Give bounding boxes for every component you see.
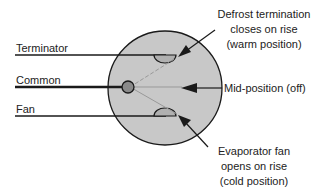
pivot-dot: [122, 81, 134, 93]
terminator-label: Terminator: [16, 42, 68, 54]
defrost-line-3: (warm position): [206, 38, 322, 50]
evaporator-line-3: (cold position): [204, 175, 304, 187]
defrost-line-2: closes on rise: [206, 23, 322, 35]
common-label: Common: [16, 74, 61, 86]
evaporator-line-1: Evaporator fan: [204, 145, 304, 157]
mid-position-label: Mid-position (off): [224, 82, 306, 94]
fan-label: Fan: [16, 103, 35, 115]
defrost-line-1: Defrost termination: [206, 8, 322, 20]
defrost-callout: Defrost termination closes on rise (warm…: [206, 8, 322, 50]
evaporator-line-2: opens on rise: [204, 160, 304, 172]
evaporator-callout: Evaporator fan opens on rise (cold posit…: [204, 145, 304, 187]
